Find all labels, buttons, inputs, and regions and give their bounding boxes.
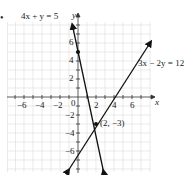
point-0-5 xyxy=(76,50,80,54)
x-tick-neg4: −4 xyxy=(35,101,45,110)
line-4x-plus-y-eq-5 xyxy=(73,26,104,172)
x-tick-2: 2 xyxy=(94,101,99,110)
y-tick-neg2: −2 xyxy=(65,111,75,120)
point-2-neg3 xyxy=(94,122,98,126)
x-tick-neg2: −2 xyxy=(53,101,63,110)
equation-label-1: 4x + y = 5 xyxy=(21,12,58,21)
axes xyxy=(7,13,155,173)
y-tick-neg6: −6 xyxy=(65,147,75,156)
y-tick-6: 6 xyxy=(69,38,74,47)
coordinate-plane xyxy=(0,0,189,175)
equation-label-2: 3x − 2y = 12 xyxy=(138,59,184,68)
bullet: • xyxy=(0,13,4,23)
y-tick-4: 4 xyxy=(69,56,74,65)
intersection-label: (2, −3) xyxy=(100,119,125,128)
y-axis-label: y xyxy=(72,11,76,20)
origin-label: 0 xyxy=(71,99,76,108)
x-tick-4: 4 xyxy=(112,101,117,110)
y-tick-2: 2 xyxy=(69,74,74,83)
x-axis-label: x xyxy=(155,98,159,107)
x-tick-6: 6 xyxy=(130,101,135,110)
y-tick-neg4: −4 xyxy=(65,129,75,138)
x-tick-neg6: −6 xyxy=(17,101,27,110)
